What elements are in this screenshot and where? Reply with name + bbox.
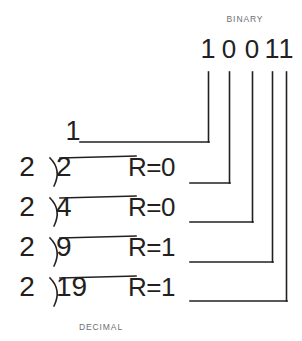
dividend-row-3: 9	[56, 232, 100, 262]
dividend-row-2: 4	[56, 192, 100, 222]
division-row-3: 2 9 R=1	[0, 232, 302, 272]
remainder-row-1: R=0	[128, 152, 190, 182]
binary-heading: BINARY	[0, 14, 302, 24]
binary-digit-4: 1	[276, 36, 296, 63]
decimal-heading: DECIMAL	[0, 322, 302, 332]
division-row-2: 2 4 R=0	[0, 192, 302, 232]
remainder-row-4: R=1	[128, 272, 190, 302]
dividend-row-1: 2	[56, 152, 100, 182]
divisor-row-2: 2	[16, 192, 38, 222]
remainder-row-3: R=1	[128, 232, 190, 262]
division-row-1: 2 2 R=0	[0, 152, 302, 192]
binary-digit-2: 0	[242, 36, 262, 62]
binary-digit-1: 0	[219, 36, 239, 62]
divisor-row-4: 2	[16, 272, 38, 302]
final-quotient: 1	[64, 118, 82, 145]
division-row-4: 2 19 R=1	[0, 272, 302, 312]
dividend-row-4: 19	[56, 272, 100, 302]
binary-digit-0: 1	[198, 36, 218, 63]
diagram-canvas: BINARY 1 0 0 1 1 1 2 2 R=0 2 4 R=0 2 9 R…	[0, 0, 302, 341]
divisor-row-1: 2	[16, 152, 38, 182]
divisor-row-3: 2	[16, 232, 38, 262]
remainder-row-2: R=0	[128, 192, 190, 222]
